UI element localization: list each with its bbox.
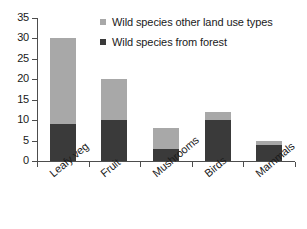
y-tick-label: 15: [17, 94, 29, 105]
bar-stack: [101, 79, 127, 161]
y-tick-label: 35: [17, 12, 29, 23]
y-tick-label: 0: [23, 155, 29, 166]
bar-segment-other-land-use: [205, 112, 231, 120]
y-tick-label: 20: [17, 73, 29, 84]
y-tick-label: 30: [17, 32, 29, 43]
bar-stack: [50, 38, 76, 161]
x-tick-mark: [192, 162, 193, 167]
y-tick-label: 25: [17, 53, 29, 64]
x-tick-mark: [37, 162, 38, 167]
y-tick-label: 10: [17, 114, 29, 125]
x-tick-mark: [89, 162, 90, 167]
stacked-bar-chart: Wild species other land use types Wild s…: [0, 0, 307, 229]
bar-segment-other-land-use: [153, 128, 179, 148]
y-tick-label: 5: [23, 135, 29, 146]
plot-area: [37, 18, 295, 161]
bar-segment-from-forest: [205, 120, 231, 161]
bar-stack: [205, 112, 231, 161]
x-tick-mark: [243, 162, 244, 167]
x-tick-mark: [295, 162, 296, 167]
x-tick-mark: [140, 162, 141, 167]
bar-segment-other-land-use: [50, 38, 76, 124]
bar-segment-other-land-use: [101, 79, 127, 120]
